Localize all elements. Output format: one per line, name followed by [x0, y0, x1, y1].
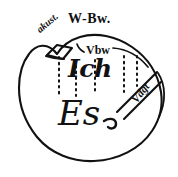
label-perception-conscious: W-Bw. [68, 12, 111, 26]
label-ego: Ich [68, 56, 112, 81]
label-id: Es [58, 96, 100, 130]
psyche-diagram-svg [0, 0, 178, 177]
freud-structural-model-figure: W-Bw. akust. Vbw Ich Es Vdgt [0, 0, 178, 177]
vbw-arrow [113, 48, 148, 67]
vbw-arrow-left-tick [77, 44, 84, 52]
es-flourish [104, 119, 116, 129]
